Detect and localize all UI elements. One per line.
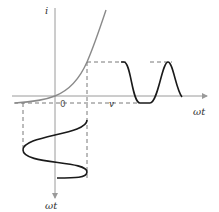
time-axis-label-right: ωt (193, 106, 206, 117)
diagram-canvas: i 0 v ωt ωt (0, 0, 219, 212)
characteristic-curve (15, 10, 106, 103)
current-waveform (121, 62, 182, 103)
dashed-guides (14, 62, 172, 180)
time-axis-label-bottom: ωt (45, 200, 58, 211)
origin-label: 0 (60, 99, 66, 109)
diode-characteristic-diagram: i 0 v ωt ωt (0, 0, 219, 212)
current-axis-label: i (45, 5, 48, 16)
voltage-axis-label: v (109, 99, 114, 109)
